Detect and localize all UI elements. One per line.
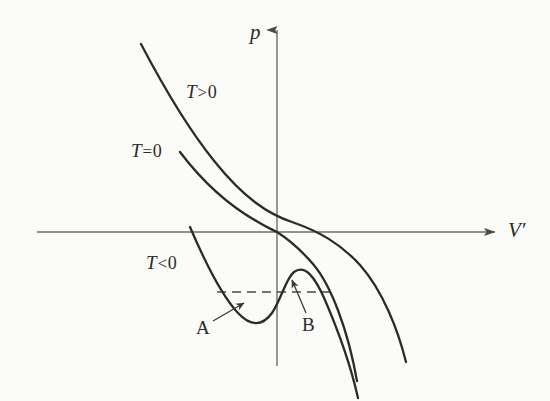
diagram-canvas xyxy=(0,0,550,401)
curve-label-t-zero-operator: = xyxy=(142,142,153,161)
point-label-a: A xyxy=(196,318,210,337)
isotherm-diagram: p V′ T>0 T=0 T<0 A B xyxy=(0,0,550,401)
curve-label-t-positive-operator: > xyxy=(197,83,208,102)
curve-t-negative xyxy=(190,227,358,398)
curve-label-t-negative-symbol: T xyxy=(146,252,157,273)
curve-label-t-negative-value: 0 xyxy=(168,253,177,273)
pressure-axis-label: p xyxy=(250,22,261,43)
curve-label-t-positive-value: 0 xyxy=(208,82,217,102)
curve-label-t-positive-symbol: T xyxy=(186,81,197,102)
curve-label-t-zero-value: 0 xyxy=(153,141,162,161)
curve-t-zero xyxy=(180,152,357,381)
curve-label-t-negative-operator: < xyxy=(157,254,168,273)
leader-arrow-b xyxy=(292,280,306,313)
curve-t-positive xyxy=(141,44,406,362)
curve-label-t-negative: T<0 xyxy=(146,253,177,272)
point-label-b: B xyxy=(302,315,315,334)
volume-axis-label: V′ xyxy=(508,220,525,241)
curve-label-t-zero: T=0 xyxy=(131,141,162,160)
curve-label-t-positive: T>0 xyxy=(186,82,217,101)
leader-arrow-a xyxy=(213,303,244,321)
curve-label-t-zero-symbol: T xyxy=(131,140,142,161)
